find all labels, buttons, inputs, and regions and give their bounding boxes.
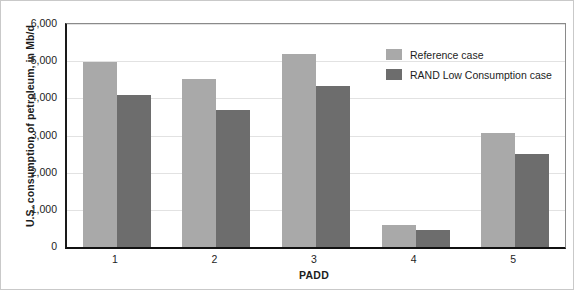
- legend-swatch-icon: [386, 69, 402, 80]
- bar: [216, 110, 250, 247]
- legend-item: Reference case: [386, 46, 552, 63]
- x-axis-tick-label: 5: [483, 253, 543, 265]
- legend: Reference caseRAND Low Consumption case: [386, 46, 552, 86]
- legend-swatch-icon: [386, 49, 402, 60]
- bar: [382, 225, 416, 247]
- bar: [182, 79, 216, 247]
- y-axis-tick-label: 4,000: [13, 91, 57, 103]
- y-axis-tick-label: 2,000: [13, 166, 57, 178]
- x-axis-title: PADD: [65, 269, 563, 281]
- y-axis-tick-label: 0: [13, 240, 57, 252]
- x-axis-tick-label: 4: [384, 253, 444, 265]
- bar: [416, 230, 450, 247]
- bar: [117, 95, 151, 247]
- y-axis-tick-label: 3,000: [13, 129, 57, 141]
- legend-label: Reference case: [410, 49, 484, 61]
- y-axis-tick-label: 1,000: [13, 203, 57, 215]
- y-axis-tick-label: 6,000: [13, 17, 57, 29]
- bar: [515, 154, 549, 247]
- x-axis-tick-label: 3: [284, 253, 344, 265]
- bar: [282, 54, 316, 247]
- bar-chart-figure: U.S. consumption of petroleum, in Mb/d 0…: [0, 0, 574, 290]
- legend-item: RAND Low Consumption case: [386, 66, 552, 83]
- x-axis-tick-label: 2: [184, 253, 244, 265]
- legend-label: RAND Low Consumption case: [410, 69, 552, 81]
- bar: [83, 62, 117, 247]
- bar: [481, 133, 515, 247]
- y-axis-tick-label: 5,000: [13, 54, 57, 66]
- bar: [316, 86, 350, 247]
- x-axis-tick-label: 1: [85, 253, 145, 265]
